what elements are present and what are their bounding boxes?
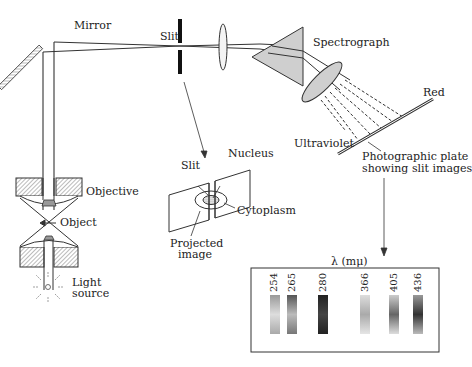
light-source-icon [32, 272, 64, 302]
object-label: Object [60, 217, 97, 229]
cytoplasm-label: Cytoplasm [237, 205, 296, 217]
wavelength-label: 254 [268, 273, 279, 292]
mirror-label: Mirror [74, 20, 111, 32]
camera-lens [297, 57, 346, 106]
wavelength-label: 265 [286, 273, 297, 292]
light-source-label-line2: source [72, 288, 109, 300]
inset-slit-label: Slit [181, 160, 200, 172]
slit-label: Slit [160, 31, 179, 43]
plate-label-line2: showing slit images [362, 163, 472, 175]
dispersed-rays [321, 80, 403, 140]
wavelength-label: 366 [359, 273, 370, 292]
nucleus-label: Nucleus [228, 148, 274, 160]
condenser [20, 236, 78, 290]
wavelength-label: 405 [388, 273, 399, 292]
spectrograph-label: Spectrograph [313, 37, 390, 49]
wavelength-label: 436 [412, 273, 423, 292]
vertical-beam [43, 42, 54, 210]
objective-label: Objective [86, 186, 139, 198]
mirror [0, 45, 43, 90]
slit-inset [169, 170, 250, 236]
wavelength-label: 280 [317, 273, 328, 292]
collimator-lens [219, 24, 227, 70]
wavelength-axis-label: λ (mμ) [331, 256, 368, 268]
red-label: Red [423, 87, 445, 99]
projected-image-label-line2: image [178, 249, 212, 261]
ultraviolet-label: Ultraviolet [294, 138, 354, 150]
